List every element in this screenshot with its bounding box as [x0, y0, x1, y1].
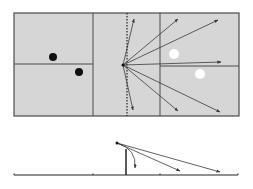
white-dot	[169, 49, 179, 59]
black-dot	[49, 53, 57, 61]
black-dot	[75, 68, 83, 76]
ray-origin	[122, 64, 125, 67]
ray-arrow	[117, 143, 220, 172]
side-view-panel	[14, 142, 238, 176]
ray-origin	[116, 142, 119, 145]
white-dot	[195, 69, 205, 79]
reflection-diagram	[0, 0, 253, 189]
top-view-panel	[14, 13, 239, 116]
